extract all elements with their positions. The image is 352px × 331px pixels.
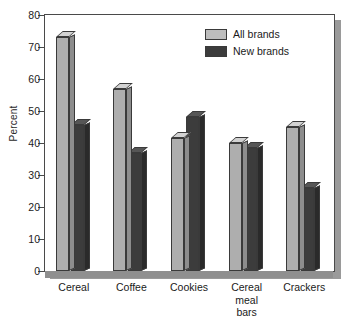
bar-face xyxy=(113,89,126,271)
bar-side xyxy=(69,35,75,271)
y-tick-label: 80 xyxy=(0,9,40,21)
legend: All brands New brands xyxy=(205,27,289,61)
x-axis-label: Cereal meal bars xyxy=(216,281,278,319)
bar-side xyxy=(242,140,248,271)
y-tick-label: 60 xyxy=(0,73,40,85)
bar-face xyxy=(56,37,69,271)
bar-face xyxy=(286,127,299,271)
legend-swatch-all-brands xyxy=(205,29,227,40)
legend-swatch-new-brands xyxy=(205,46,227,57)
bar-side xyxy=(184,136,190,271)
legend-item-all-brands: All brands xyxy=(205,27,289,41)
bar-side xyxy=(199,115,205,271)
x-axis-label: Coffee xyxy=(100,281,162,294)
y-tick-label: 20 xyxy=(0,201,40,213)
x-axis-label: Cereal xyxy=(43,281,105,294)
x-axis-labels: CerealCoffeeCookiesCereal meal barsCrack… xyxy=(45,281,333,329)
x-axis-label: Cookies xyxy=(158,281,220,294)
plot-area xyxy=(45,15,333,271)
legend-label-all-brands: All brands xyxy=(233,28,280,40)
y-tick-label: 30 xyxy=(0,169,40,181)
bar-face xyxy=(171,138,184,271)
bar-side xyxy=(299,124,305,271)
bar-side xyxy=(126,86,132,271)
bar-chart: Percent 01020304050607080 All brands New… xyxy=(0,0,352,331)
y-tick-label: 0 xyxy=(0,265,40,277)
bar-side xyxy=(141,150,147,271)
legend-item-new-brands: New brands xyxy=(205,44,289,58)
bar-side xyxy=(314,185,320,271)
legend-label-new-brands: New brands xyxy=(233,45,289,57)
bar-all-brands xyxy=(56,37,69,271)
bar-all-brands xyxy=(286,127,299,271)
bar-face xyxy=(229,143,242,271)
bar-side xyxy=(257,145,263,271)
plot-frame-shadow-right xyxy=(335,20,341,278)
y-tick-label: 70 xyxy=(0,41,40,53)
y-tick-label: 40 xyxy=(0,137,40,149)
bar-all-brands xyxy=(171,138,184,271)
baseline-floor xyxy=(45,271,333,278)
y-tick-label: 10 xyxy=(0,233,40,245)
x-axis-label: Crackers xyxy=(273,281,335,294)
bar-side xyxy=(84,123,90,271)
y-tick-label: 50 xyxy=(0,105,40,117)
bar-all-brands xyxy=(229,143,242,271)
bar-all-brands xyxy=(113,89,126,271)
